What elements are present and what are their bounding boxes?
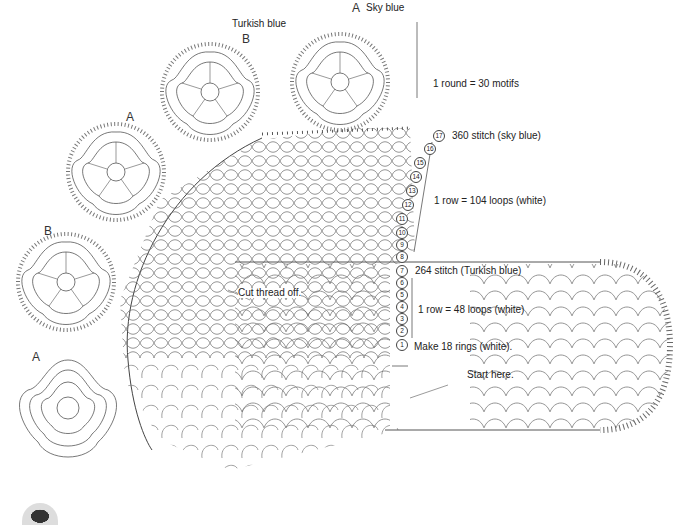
rows-8-16-label: 1 row = 104 loops (white) <box>434 196 546 206</box>
row-number: 8 <box>396 251 408 263</box>
row-number: 1 <box>396 339 408 351</box>
row-number: 13 <box>406 185 418 197</box>
row7-label: 264 stitch (Turkish blue) <box>415 266 521 276</box>
row-number: 14 <box>410 171 422 183</box>
motif-fifth-letter: A <box>32 351 40 363</box>
row-number: 6 <box>396 277 408 289</box>
row-number: 15 <box>414 157 426 169</box>
row-number: 2 <box>396 325 408 337</box>
row1-label: Make 18 rings (white). <box>414 342 512 352</box>
start-here-label: Start here. <box>467 370 514 380</box>
motif-top <box>292 34 388 130</box>
motif-second-letter: B <box>242 33 250 45</box>
row17-label: 360 stitch (sky blue) <box>452 131 541 141</box>
motif-second <box>162 44 258 140</box>
row-number: 16 <box>424 143 436 155</box>
row-number: 17 <box>433 130 445 142</box>
row-number: 10 <box>396 227 408 239</box>
row-number: 3 <box>396 313 408 325</box>
row-number: 4 <box>396 301 408 313</box>
motif-third <box>68 124 164 220</box>
row-number: 5 <box>396 289 408 301</box>
motif-second-color: Turkish blue <box>232 19 286 29</box>
row-number: 11 <box>396 213 408 225</box>
row-number: 12 <box>402 199 414 211</box>
cut-thread-label: Cut thread off. <box>238 288 301 298</box>
row-number: 9 <box>396 239 408 251</box>
round-motifs-label: 1 round = 30 motifs <box>433 79 519 89</box>
motif-top-color: Sky blue <box>366 3 404 13</box>
motif-top-letter: A <box>352 2 360 14</box>
motif-third-letter: A <box>126 111 134 123</box>
motif-fourth <box>18 234 114 330</box>
rows-2-6-label: 1 row = 48 loops (white) <box>418 305 524 315</box>
motif-fourth-letter: B <box>44 225 52 237</box>
row-number: 7 <box>396 265 408 277</box>
